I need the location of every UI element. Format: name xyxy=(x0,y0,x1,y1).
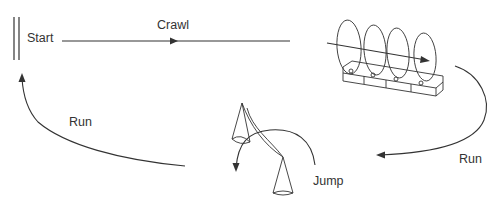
run-left-label: Run xyxy=(69,115,92,129)
jump-creature-icon xyxy=(232,103,315,195)
crawl-arrow xyxy=(62,38,290,45)
locomotion-diagram: Start Crawl Run xyxy=(0,0,500,207)
start-label: Start xyxy=(27,31,54,45)
run-left-arrow xyxy=(19,73,186,166)
crawl-label: Crawl xyxy=(157,18,189,32)
run-right-arrow xyxy=(376,66,486,159)
start-marker xyxy=(14,17,19,60)
jump-label: Jump xyxy=(313,174,344,188)
crawl-creature-icon xyxy=(327,19,443,96)
run-right-label: Run xyxy=(459,152,482,166)
